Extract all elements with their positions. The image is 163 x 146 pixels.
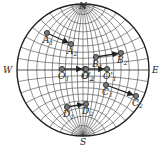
point-label: D1 — [62, 109, 74, 120]
south-label: S — [80, 137, 86, 146]
point-label: A1 — [42, 35, 53, 46]
point-label: O1 — [58, 71, 69, 82]
east-label: E — [151, 65, 159, 75]
west-label: W — [3, 65, 13, 75]
point-label: O'1 — [103, 71, 117, 82]
wulff-net: A1A2B1B2O1O'2O2O'1C1C2D1D2 N S W E — [0, 0, 163, 146]
point-label: B2 — [116, 55, 128, 66]
point-label: O2 — [82, 71, 93, 82]
point-label: D2 — [81, 106, 93, 117]
north-label: N — [78, 1, 88, 11]
point-label: A2 — [66, 46, 78, 57]
point-label: C1 — [102, 87, 113, 98]
